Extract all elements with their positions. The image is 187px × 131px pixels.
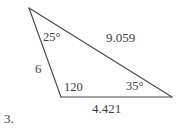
triangle-outline (29, 8, 172, 97)
angle-label-apex: 25° (43, 31, 61, 44)
problem-number: 3. (4, 112, 14, 125)
triangle-edge-hypotenuse (29, 8, 172, 97)
angle-label-right: 35° (126, 80, 144, 93)
angle-label-bottom-left: 120 (64, 81, 83, 94)
triangle-edge-left (29, 8, 61, 97)
side-length-label-base: 4.421 (92, 102, 121, 115)
figure-page: 25° 9.059 6 120 35° 4.421 3. (0, 0, 187, 131)
side-length-label-left: 6 (35, 62, 42, 75)
side-length-label-hypotenuse: 9.059 (106, 31, 135, 44)
